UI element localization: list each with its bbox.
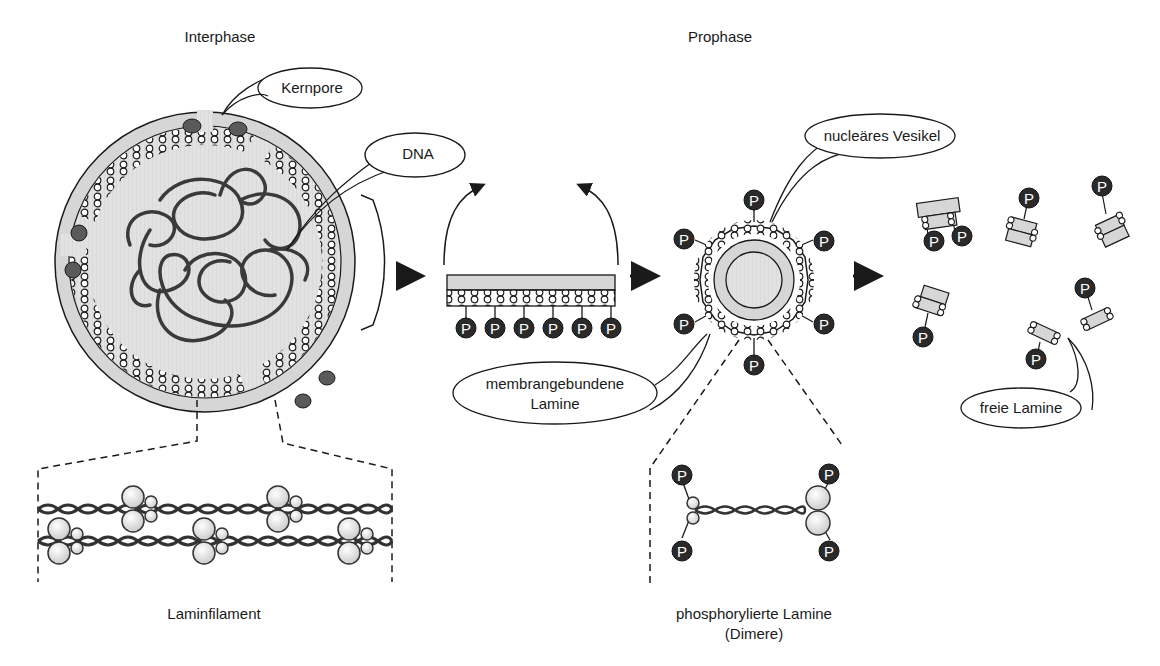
stage-label-interphase: Interphase xyxy=(185,28,256,45)
lamin-filament-illustration xyxy=(38,486,392,564)
membrane-segment xyxy=(444,185,621,338)
stage-label-prophase: Prophase xyxy=(688,28,752,45)
free-lamin-fragments xyxy=(912,176,1132,369)
callout-label-free-lamins: freie Lamine xyxy=(980,399,1063,416)
lamina-disassembly-diagram: P xyxy=(0,0,1160,666)
callout-label-nuclear-vesicle: nucleäres Vesikel xyxy=(824,127,941,144)
phosphorylated-dimer-illustration xyxy=(672,464,839,561)
nuclear-vesicle xyxy=(674,190,834,375)
caption-phosphorylated-lamins-line2: (Dimere) xyxy=(725,625,783,642)
interphase-nucleus xyxy=(55,110,385,412)
callout-label-membrane-bound-lamins-line1: membrangebundene xyxy=(486,375,624,392)
phosphate-icon xyxy=(456,318,621,338)
callout-label-membrane-bound-lamins-line2: Lamine xyxy=(530,395,579,412)
callout-label-dna: DNA xyxy=(402,145,434,162)
callout-label-kernpore: Kernpore xyxy=(281,79,343,96)
caption-lamin-filament: Laminfilament xyxy=(167,605,260,622)
caption-phosphorylated-lamins-line1: phosphorylierte Lamine xyxy=(676,605,832,622)
